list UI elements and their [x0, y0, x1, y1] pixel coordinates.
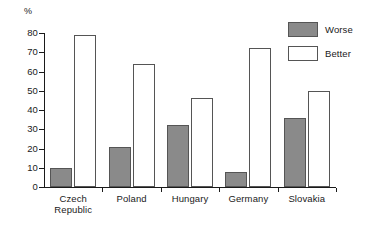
- legend-item-worse: Worse: [288, 22, 353, 37]
- y-axis-tick-label: 20: [4, 144, 38, 154]
- category-label-hungary: Hungary: [161, 193, 219, 204]
- bar-better-germany: [249, 48, 271, 187]
- x-axis-tick: [102, 188, 103, 192]
- y-axis-tick-label: 0: [4, 182, 38, 192]
- category-label-czech-republic: CzechRepublic: [44, 193, 102, 215]
- bar-better-hungary: [191, 98, 213, 187]
- y-axis-tick-label: 40: [4, 105, 38, 115]
- bar-worse-germany: [225, 172, 247, 187]
- y-axis-tick-label: 10: [4, 163, 38, 173]
- category-label-poland: Poland: [102, 193, 160, 204]
- bar-worse-poland: [109, 147, 131, 187]
- bar-group: [161, 33, 219, 187]
- category-label-line: Czech: [44, 193, 102, 204]
- y-axis-tick-label: 70: [4, 47, 38, 57]
- category-label-line: Poland: [102, 193, 160, 204]
- legend-item-better: Better: [288, 46, 353, 61]
- x-axis-tick: [219, 188, 220, 192]
- category-label-germany: Germany: [219, 193, 277, 204]
- bar-worse-hungary: [167, 125, 189, 187]
- x-axis-tick: [336, 188, 337, 192]
- bar-worse-slovakia: [284, 118, 306, 187]
- y-axis-unit-label: %: [24, 6, 32, 16]
- category-label-line: Hungary: [161, 193, 219, 204]
- bar-group: [102, 33, 160, 187]
- x-axis-line: [44, 187, 336, 188]
- bar-better-poland: [133, 64, 155, 187]
- legend-label: Worse: [325, 25, 353, 35]
- x-axis-tick: [278, 188, 279, 192]
- category-label-line: Republic: [44, 204, 102, 215]
- chart-legend: WorseBetter: [288, 22, 353, 70]
- y-axis-tick-labels: 80706050403020100: [4, 33, 38, 188]
- bar-group: [219, 33, 277, 187]
- bar-group: [44, 33, 102, 187]
- y-axis-tick-label: 80: [4, 28, 38, 38]
- bar-better-czech-republic: [74, 35, 96, 187]
- y-axis-tick-label: 50: [4, 86, 38, 96]
- legend-label: Better: [325, 49, 351, 59]
- legend-swatch-worse: [288, 22, 318, 37]
- bar-better-slovakia: [308, 91, 330, 187]
- category-label-line: Slovakia: [278, 193, 336, 204]
- bar-worse-czech-republic: [50, 168, 72, 187]
- y-axis-tick-label: 30: [4, 124, 38, 134]
- category-label-line: Germany: [219, 193, 277, 204]
- bar-chart: % 80706050403020100 CzechRepublicPolandH…: [0, 0, 381, 234]
- x-axis-tick: [161, 188, 162, 192]
- legend-swatch-better: [288, 46, 318, 61]
- category-label-slovakia: Slovakia: [278, 193, 336, 204]
- y-axis-tick: [39, 187, 44, 188]
- y-axis-tick-label: 60: [4, 67, 38, 77]
